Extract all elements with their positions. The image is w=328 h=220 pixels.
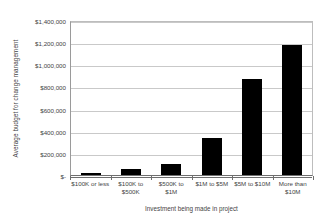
bar — [282, 45, 302, 175]
x-axis-tick-label: $1M to $5M — [192, 180, 233, 196]
bar — [81, 173, 101, 175]
bar-slot — [192, 22, 232, 175]
bar-slot — [111, 22, 151, 175]
bar-series — [71, 22, 312, 175]
y-axis-tick-label: $1,000,000 — [35, 62, 66, 69]
y-axis-tick-label: $400,000 — [40, 128, 66, 135]
y-axis-tick-label: $1,400,000 — [35, 18, 66, 25]
y-axis-tick-label: $1,200,000 — [35, 40, 66, 47]
x-axis-tick-mark — [313, 176, 314, 180]
x-axis-tick-label: $5M to $10M — [232, 180, 273, 196]
bar — [202, 138, 222, 175]
y-axis-tick-label: $- — [60, 173, 66, 180]
x-axis-tick-labels: $100K or less$100K to $500K$500K to $1M$… — [70, 180, 313, 196]
y-axis-tick-label: $600,000 — [40, 106, 66, 113]
y-axis-title-text: Average budget for change management — [13, 39, 20, 157]
x-axis-tick-label: $500K to $1M — [151, 180, 192, 196]
bar-slot — [71, 22, 111, 175]
bar — [121, 169, 141, 175]
y-axis-title: Average budget for change management — [8, 18, 24, 178]
bar-slot — [272, 22, 312, 175]
bar-slot — [151, 22, 191, 175]
bar — [242, 79, 262, 175]
plot-area — [70, 21, 313, 176]
y-axis-tick-label: $200,000 — [40, 150, 66, 157]
bar — [161, 164, 181, 175]
x-axis-tick-label: $100K to $500K — [111, 180, 152, 196]
x-axis-title: Investment being made in project — [70, 205, 313, 212]
x-axis-tick-label: $100K or less — [70, 180, 111, 196]
bar-chart: Average budget for change management $1,… — [0, 0, 328, 220]
y-axis-tick-labels: $1,400,000$1,200,000$1,000,000$800,000$6… — [24, 21, 68, 176]
x-axis-tick-label: More than $10M — [273, 180, 314, 196]
bar-slot — [232, 22, 272, 175]
y-axis-tick-label: $800,000 — [40, 84, 66, 91]
